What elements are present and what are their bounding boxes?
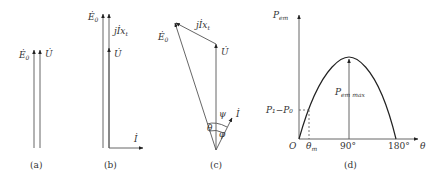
caption-d: (d) (344, 160, 357, 170)
u-label: U̇ (45, 48, 53, 59)
e0-label: Ė0 (18, 49, 30, 61)
caption-b: (b) (104, 160, 117, 170)
phasor-diagram-figure: Ė0 U̇ (a) Ė0 jİxt U̇ İ (b) Ė0 jİxt U̇ İ … (0, 0, 434, 181)
tick-180: 180° (388, 141, 410, 151)
e0-label: Ė0 (157, 31, 169, 43)
caption-a: (a) (30, 160, 42, 170)
tick-90: 90° (340, 141, 356, 151)
origin-label: O (289, 141, 297, 151)
panel-a: Ė0 U̇ (a) (18, 48, 53, 170)
jix-label: jİxt (112, 25, 128, 37)
panel-d: Pem θ O Pem max P₁−P₀ θm 90° 180° (d) (265, 10, 426, 170)
panel-b: Ė0 jİxt U̇ İ (b) (87, 11, 143, 170)
figure-svg: Ė0 U̇ (a) Ė0 jİxt U̇ İ (b) Ė0 jİxt U̇ İ … (0, 0, 434, 181)
panel-c: Ė0 jİxt U̇ İ ψ θ φ (c) (157, 19, 240, 170)
theta-label: θ (207, 123, 213, 133)
phi-label: φ (219, 129, 226, 139)
e0-label: Ė0 (87, 11, 99, 23)
x-axis-label: θ (420, 141, 426, 151)
psi-label: ψ (219, 109, 227, 119)
level-label: P₁−P₀ (265, 105, 293, 115)
jix-label: jİxt (194, 19, 210, 31)
tick-theta-m: θm (306, 141, 317, 152)
i-label: İ (133, 133, 138, 144)
u-label: U̇ (221, 46, 229, 57)
i-label: İ (235, 108, 240, 119)
u-label: U̇ (114, 48, 122, 59)
y-axis-label: Pem (272, 10, 289, 21)
power-angle-curve (299, 57, 396, 139)
caption-c: (c) (210, 160, 222, 170)
peak-label: Pem max (334, 87, 365, 98)
